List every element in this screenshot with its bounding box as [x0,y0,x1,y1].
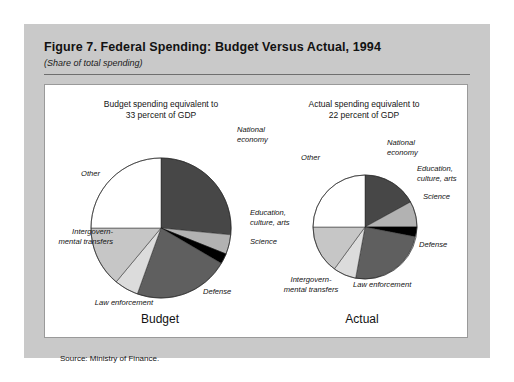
actual-label-education: Education, culture, arts [417,164,457,183]
chart-panel: Budget spending equivalent to 33 percent… [44,84,468,338]
actual-label-law-enforcement: Law enforcement [353,280,411,290]
actual-slice-other [313,175,365,227]
budget-caption: Budget [45,312,275,326]
budget-slice-national-economy [161,158,231,235]
budget-slice-other [91,158,161,228]
actual-heading-line2: 22 percent of GDP [329,110,399,120]
budget-pie-heading: Budget spending equivalent to 33 percent… [73,99,249,121]
actual-caption: Actual [265,312,459,326]
budget-label-defense: Defense [203,287,231,297]
budget-label-law-enforcement: Law enforcement [81,298,167,308]
title-divider [44,74,470,75]
actual-label-other: Other [301,153,320,163]
actual-slice-defense [356,227,416,279]
actual-pie-heading: Actual spending equivalent to 22 percent… [281,99,447,121]
figure-subtitle: (Share of total spending) [44,58,143,68]
figure-title: Figure 7. Federal Spending: Budget Versu… [44,40,381,54]
actual-label-national-economy: National economy [387,138,418,157]
actual-pie-chart: Actual spending equivalent to 22 percent… [275,85,469,339]
budget-heading-line2: 33 percent of GDP [126,110,196,120]
budget-label-national-economy: National economy [237,125,268,144]
figure-frame: Figure 7. Federal Spending: Budget Versu… [24,24,490,358]
actual-label-defense: Defense [419,240,447,250]
budget-label-science: Science [250,237,277,247]
budget-label-intergov-transfers: Intergovern- mental transfers [39,227,113,246]
source-note: Source: Ministry of Finance. [60,354,159,363]
actual-label-intergov-transfers: Intergovern- mental transfers [267,275,355,294]
budget-heading-line1: Budget spending equivalent to [104,99,218,109]
budget-pie-chart: Budget spending equivalent to 33 percent… [45,85,275,339]
budget-label-other: Other [81,169,100,179]
actual-heading-line1: Actual spending equivalent to [308,99,419,109]
budget-pie-svg [45,121,275,321]
actual-label-science: Science [423,192,450,202]
